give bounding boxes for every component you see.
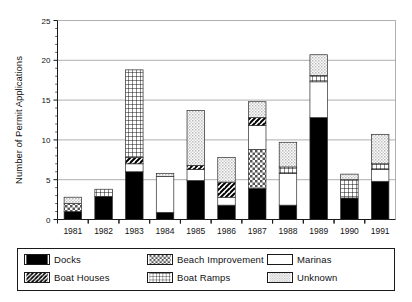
legend-swatch-grid-icon — [147, 272, 173, 283]
legend-item-marinas[interactable]: Marinas — [267, 254, 332, 265]
bar-segment-1985-docks — [187, 181, 205, 220]
x-tick-label-1987: 1987 — [248, 226, 267, 236]
bar-segment-1983-boat-houses — [126, 157, 144, 163]
legend-swatch-checker-icon — [147, 254, 173, 265]
bar-1987 — [248, 102, 265, 220]
bar-segment-1991-docks — [371, 181, 389, 219]
bar-1984 — [156, 173, 174, 219]
legend-swatch-fill — [26, 273, 47, 282]
y-tick-label: 15 — [42, 96, 51, 105]
bar-segment-1981-beach-improvement — [64, 204, 82, 212]
x-tick-label-1984: 1984 — [156, 226, 175, 236]
bar-segment-1986-marinas — [218, 197, 236, 205]
y-tick-label: 5 — [46, 176, 51, 185]
bar-1990 — [341, 174, 359, 219]
legend-swatch-white-icon — [267, 254, 293, 265]
permit-applications-stacked-bar-chart: 0510152025 19811982198319841985198619871… — [0, 0, 412, 246]
legend-item-unknown[interactable]: Unknown — [267, 272, 337, 283]
bar-segment-1990-boat-ramps — [341, 180, 359, 198]
bar-segment-1991-unknown — [371, 134, 389, 163]
bar-segment-1984-marinas — [156, 177, 174, 213]
y-tick-label: 0 — [46, 216, 51, 225]
bar-segment-1984-unknown — [156, 173, 174, 176]
bar-segment-1981-unknown — [64, 197, 82, 203]
legend-item-label: Beach Improvement — [177, 255, 264, 265]
chart-legend: DocksBoat HousesBeach ImprovementBoat Ra… — [17, 248, 395, 291]
legend-item-boat-houses[interactable]: Boat Houses — [24, 272, 110, 283]
bar-segment-1989-unknown — [310, 55, 328, 76]
legend-swatch-fill — [149, 273, 170, 282]
bar-1981 — [64, 197, 82, 219]
bar-segment-1983-boat-ramps — [126, 70, 144, 158]
bar-segment-1988-docks — [279, 205, 297, 219]
legend-swatch-fill — [269, 255, 290, 264]
legend-item-boat-ramps[interactable]: Boat Ramps — [147, 272, 230, 283]
y-tick-label: 20 — [42, 56, 51, 65]
bar-segment-1987-unknown — [248, 102, 265, 118]
x-tick-label-1991: 1991 — [371, 226, 390, 236]
legend-item-label: Unknown — [297, 273, 337, 283]
y-tick-label: 10 — [42, 136, 51, 145]
legend-item-docks[interactable]: Docks — [24, 254, 81, 265]
legend-swatch-fill — [149, 255, 170, 264]
x-tick-label-1982: 1982 — [94, 226, 113, 236]
bar-segment-1991-marinas — [371, 169, 389, 181]
bar-segment-1983-docks — [126, 172, 144, 220]
x-tick-label-1989: 1989 — [309, 226, 328, 236]
x-tick-label-1985: 1985 — [186, 226, 205, 236]
bar-segment-1986-unknown — [218, 157, 236, 182]
legend-item-label: Docks — [54, 255, 81, 265]
x-tick-label-1981: 1981 — [63, 226, 82, 236]
bar-segment-1987-marinas — [248, 126, 265, 150]
bar-segment-1989-marinas — [310, 82, 328, 118]
bar-1983 — [126, 70, 144, 220]
bar-segment-1984-docks — [156, 212, 174, 219]
bar-segment-1986-docks — [218, 205, 236, 219]
bar-1988 — [279, 142, 297, 219]
legend-swatch-fill — [26, 255, 47, 264]
bar-segment-1987-docks — [248, 188, 265, 219]
bar-segment-1987-beach-improvement — [248, 149, 265, 188]
legend-item-label: Marinas — [297, 255, 332, 265]
bar-segment-1989-boat-ramps — [310, 75, 328, 81]
legend-item-label: Boat Houses — [54, 273, 110, 283]
x-tick-label-1983: 1983 — [125, 226, 144, 236]
bar-segment-1988-marinas — [279, 173, 297, 205]
bar-1989 — [310, 55, 328, 220]
x-tick-label-1988: 1988 — [278, 226, 297, 236]
x-tick-label-1986: 1986 — [217, 226, 236, 236]
bar-segment-1985-boat-houses — [187, 165, 205, 169]
chart-container: 0510152025 19811982198319841985198619871… — [0, 0, 412, 246]
bar-1986 — [218, 157, 236, 219]
bar-segment-1983-marinas — [126, 164, 144, 172]
x-tick-label-1990: 1990 — [340, 226, 359, 236]
bar-segment-1986-boat-houses — [218, 182, 236, 197]
legend-swatch-fill — [269, 273, 290, 282]
bar-segment-1982-docks — [95, 196, 113, 219]
bar-segment-1985-marinas — [187, 169, 205, 180]
bar-1991 — [371, 134, 389, 219]
bar-segment-1990-docks — [341, 198, 359, 219]
bar-segment-1981-docks — [64, 212, 82, 220]
bar-segment-1991-boat-ramps — [371, 164, 389, 170]
bar-segment-1982-boat-ramps — [95, 189, 113, 196]
bar-segment-1985-unknown — [187, 110, 205, 165]
legend-swatch-light-gray-icon — [267, 272, 293, 283]
bar-1982 — [95, 189, 113, 219]
legend-swatch-solid-black-icon — [24, 254, 50, 265]
y-axis-title: Number of Permit Applications — [13, 56, 24, 184]
bar-segment-1988-boat-ramps — [279, 167, 297, 173]
legend-item-beach-improvement[interactable]: Beach Improvement — [147, 254, 264, 265]
bar-segment-1990-unknown — [341, 174, 359, 180]
y-tick-label: 25 — [42, 17, 51, 26]
bar-1985 — [187, 110, 205, 219]
bar-segment-1987-boat-houses — [248, 118, 265, 126]
legend-swatch-diag-hatch-icon — [24, 272, 50, 283]
legend-item-label: Boat Ramps — [177, 273, 230, 283]
x-axis: 1981198219831984198519861987198819891990… — [58, 220, 390, 236]
bar-segment-1988-unknown — [279, 142, 297, 167]
bar-segment-1989-docks — [310, 118, 328, 220]
